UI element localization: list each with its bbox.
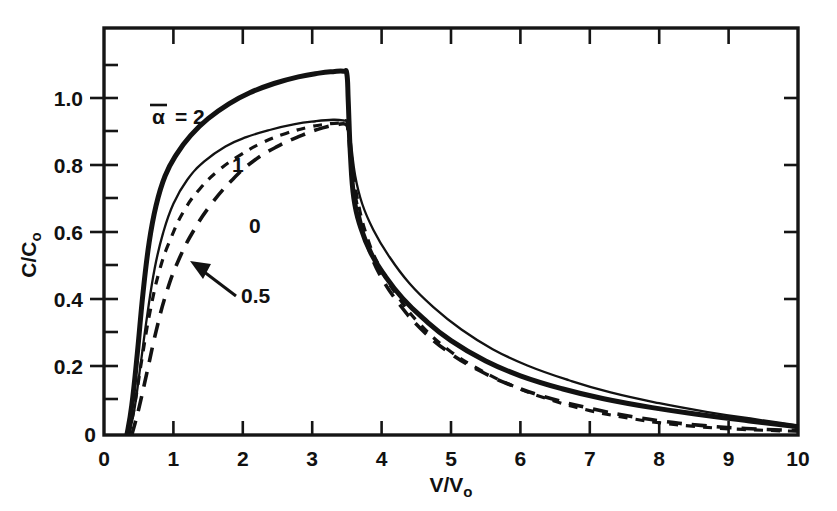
y-axis-title: C/Co — [17, 232, 44, 277]
annotation-0-5-label: 0.5 — [241, 284, 271, 307]
x-tick-label: 4 — [376, 447, 388, 470]
figure-container: 1.0 0.8 0.6 0.4 0.2 0 0 1 2 3 4 5 6 7 8 … — [0, 0, 837, 511]
curve-alpha-2 — [127, 70, 798, 435]
x-tick-label: 2 — [237, 447, 249, 470]
x-tick-label: 6 — [515, 447, 527, 470]
y-tick-label: 0.6 — [54, 221, 83, 244]
y-tick-label: 0.2 — [54, 355, 83, 378]
curves-group — [127, 70, 798, 435]
x-tick-label: 8 — [653, 447, 665, 470]
x-tick-label: 10 — [786, 447, 809, 470]
alpha-equals-two: = 2 — [175, 105, 205, 128]
annotation-alpha-2: α = 2 — [150, 105, 205, 128]
y-tick-label: 1.0 — [54, 87, 83, 110]
curve-alpha-1 — [128, 120, 798, 435]
annotation-alpha-0-5: 0.5 — [190, 261, 271, 307]
y-tick-label: 0.8 — [54, 154, 84, 177]
chart-svg: 1.0 0.8 0.6 0.4 0.2 0 0 1 2 3 4 5 6 7 8 … — [0, 0, 837, 511]
x-tick-label: 7 — [584, 447, 596, 470]
x-tick-label: 5 — [445, 447, 457, 470]
x-tick-label: 9 — [723, 447, 735, 470]
x-tick-label: 0 — [98, 447, 110, 470]
x-tick-label: 1 — [168, 447, 180, 470]
y-axis-ticks-right — [784, 98, 798, 366]
y-tick-label: 0 — [84, 423, 96, 446]
y-tick-label: 0.4 — [54, 288, 84, 311]
x-tick-label: 3 — [306, 447, 318, 470]
annotation-alpha-0: 0 — [249, 214, 261, 237]
y-tick-labels: 1.0 0.8 0.6 0.4 0.2 0 — [54, 87, 96, 446]
curve-alpha-0 — [129, 121, 798, 435]
x-tick-labels: 0 1 2 3 4 5 6 7 8 9 10 — [98, 447, 810, 470]
plot-frame — [104, 28, 798, 435]
alpha-symbol: α — [152, 105, 165, 128]
x-axis-ticks-top — [173, 28, 728, 44]
x-axis-title: V/Vo — [429, 473, 472, 500]
annotation-alpha-1: 1 — [232, 153, 244, 176]
x-axis-ticks-bottom — [173, 421, 728, 435]
